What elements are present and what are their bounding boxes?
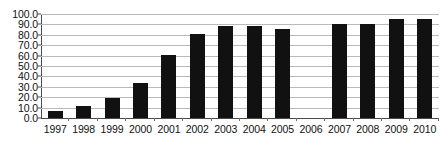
bar-2000 bbox=[133, 83, 148, 118]
bar-slot-2009 bbox=[382, 14, 410, 118]
bar-slot-1998 bbox=[69, 14, 97, 118]
bar-2009 bbox=[389, 19, 404, 118]
x-axis-tick-label-2002: 2002 bbox=[183, 121, 211, 137]
y-axis-tick-labels: 100.090.080.070.060.050.040.030.020.010.… bbox=[0, 14, 38, 118]
bar-1998 bbox=[76, 106, 91, 118]
bar-1997 bbox=[48, 111, 63, 118]
y-axis-tick-label: 0.0 bbox=[24, 113, 38, 124]
bar-slot-2002 bbox=[183, 14, 211, 118]
bar-2007 bbox=[332, 24, 347, 118]
bar-2001 bbox=[161, 55, 176, 118]
bar-2003 bbox=[218, 26, 233, 118]
bar-slot-2006 bbox=[297, 14, 325, 118]
x-axis-tick-label-2007: 2007 bbox=[325, 121, 353, 137]
bar-slot-2007 bbox=[325, 14, 353, 118]
bar-1999 bbox=[105, 98, 120, 118]
plot-area bbox=[41, 14, 439, 118]
bar-slot-1997 bbox=[41, 14, 69, 118]
x-axis-tick-label-2008: 2008 bbox=[354, 121, 382, 137]
bar-series bbox=[41, 14, 439, 118]
bar-slot-1999 bbox=[98, 14, 126, 118]
x-axis-tick-labels: 1997199819992000200120022003200420052006… bbox=[41, 121, 439, 137]
bar-slot-2008 bbox=[354, 14, 382, 118]
bar-2004 bbox=[247, 26, 262, 118]
bar-2005 bbox=[275, 29, 290, 118]
x-axis-tick-label-2006: 2006 bbox=[297, 121, 325, 137]
bar-slot-2010 bbox=[410, 14, 438, 118]
bar-slot-2003 bbox=[212, 14, 240, 118]
x-axis-tick-label-1997: 1997 bbox=[41, 121, 69, 137]
bar-chart: 100.090.080.070.060.050.040.030.020.010.… bbox=[0, 0, 446, 144]
x-axis-tick-label-2005: 2005 bbox=[268, 121, 296, 137]
x-axis-tick-label-2000: 2000 bbox=[126, 121, 154, 137]
x-axis-tick-label-1999: 1999 bbox=[98, 121, 126, 137]
x-axis-tick-label-2003: 2003 bbox=[212, 121, 240, 137]
x-axis-tick-label-1998: 1998 bbox=[69, 121, 97, 137]
x-axis-tick-label-2010: 2010 bbox=[410, 121, 438, 137]
x-axis-tick-label-2009: 2009 bbox=[382, 121, 410, 137]
bar-2002 bbox=[190, 34, 205, 118]
x-axis-tick-label-2004: 2004 bbox=[240, 121, 268, 137]
bar-2010 bbox=[417, 19, 432, 118]
bar-slot-2005 bbox=[268, 14, 296, 118]
bar-2008 bbox=[360, 24, 375, 118]
bar-slot-2000 bbox=[126, 14, 154, 118]
x-axis-tick-label-2001: 2001 bbox=[155, 121, 183, 137]
bar-slot-2001 bbox=[155, 14, 183, 118]
bar-slot-2004 bbox=[240, 14, 268, 118]
